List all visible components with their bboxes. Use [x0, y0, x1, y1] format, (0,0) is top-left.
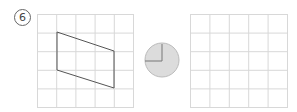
- figure-canvas: [0, 0, 297, 112]
- left-grid: [38, 15, 134, 108]
- parallelogram-shape: [57, 32, 114, 88]
- angle-circle-icon: [145, 43, 179, 77]
- right-grid: [191, 15, 288, 108]
